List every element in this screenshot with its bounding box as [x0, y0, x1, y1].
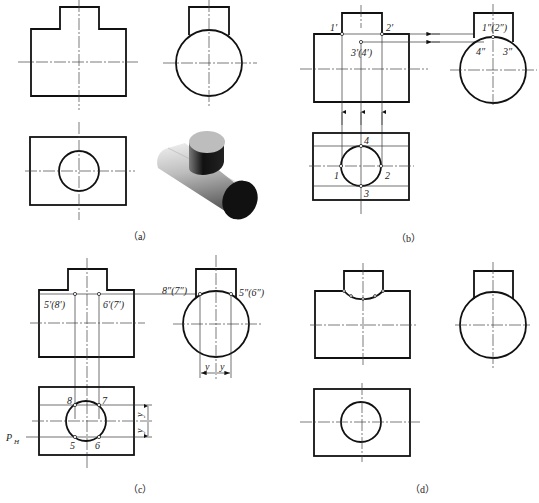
label-2-prime: 2′	[386, 22, 394, 33]
panel-a-side-view	[163, 0, 257, 106]
point-1-front	[340, 32, 343, 35]
label-7: 7	[102, 395, 108, 406]
panel-b-front-view: 1′ 2′ 3′(4′)	[300, 5, 484, 186]
panel-b-top-view: 1 2 3 4	[309, 133, 414, 214]
label-56-double-prime: 5″(6″)	[239, 287, 265, 299]
label-8: 8	[67, 395, 72, 406]
point-34-front	[359, 40, 362, 43]
panel-a-front-view	[18, 0, 140, 110]
label-12-double-prime: 1″(2″)	[482, 22, 508, 34]
label-6: 6	[95, 440, 100, 451]
panel-a-top-view	[25, 122, 135, 220]
label-3: 3	[363, 188, 369, 199]
label-4-double-prime: 4″	[476, 46, 486, 57]
dim-y-bottom: y	[134, 428, 145, 434]
label-67-prime: 6′(7′)	[103, 299, 125, 311]
caption-a: （a）	[128, 231, 152, 242]
label-3-double-prime: 3″	[502, 46, 513, 57]
panel-d: （d）	[300, 262, 530, 495]
caption-b: （b）	[396, 233, 421, 244]
label-1: 1	[334, 170, 339, 181]
caption-d: （d）	[410, 484, 435, 495]
label-34-prime: 3′(4′)	[350, 47, 373, 59]
panel-d-top-view	[300, 383, 420, 462]
label-4: 4	[364, 135, 369, 146]
label-5: 5	[70, 440, 75, 451]
dim-y-left: y	[204, 361, 210, 372]
isometric-3d-view	[157, 131, 264, 226]
label-plane-sub-h: H	[13, 438, 20, 446]
dim-y-top: y	[134, 412, 145, 418]
panel-d-front-view	[310, 263, 418, 366]
panel-b-side-view: 1″(2″) 4″ 3″	[450, 4, 537, 105]
label-1-prime: 1′	[330, 22, 338, 33]
dim-y-right: y	[219, 361, 225, 372]
panel-b: 1′ 2′ 3′(4′) 1″(2″) 4″ 3″ 1 2	[300, 4, 537, 244]
label-87-double-prime: 8″(7″)	[162, 285, 188, 297]
label-2: 2	[385, 170, 390, 181]
caption-c: （c）	[128, 484, 152, 495]
panel-c-top-view: 8 7 5 6 y y P H	[5, 387, 152, 455]
panel-c: 5′(8′) 6′(7′) 8″(7″) 5″(6″) y y	[5, 255, 265, 495]
panel-c-side-view: 8″(7″) 5″(6″) y y	[162, 255, 265, 380]
panel-d-side-view	[455, 262, 530, 369]
label-58-prime: 5′(8′)	[44, 299, 66, 311]
point-2-front	[380, 32, 383, 35]
figure-canvas: （a） 1′ 2′ 3′(4′)	[0, 0, 539, 503]
label-plane-p: P	[5, 432, 12, 443]
panel-a: （a）	[18, 0, 264, 242]
